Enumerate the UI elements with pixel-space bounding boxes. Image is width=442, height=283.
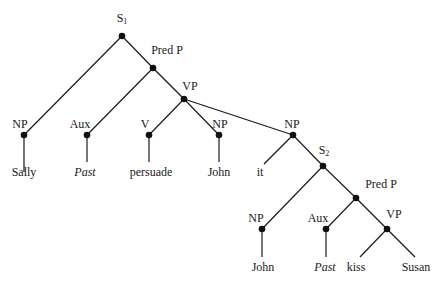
node-label-vp1: VP <box>182 80 197 92</box>
tree-node-dot <box>323 226 330 233</box>
leaf-word: John <box>208 166 231 178</box>
leaf-word: Susan <box>402 261 431 273</box>
tree-edge <box>149 99 184 135</box>
tree-edge <box>360 229 387 257</box>
tree-node-dot <box>320 163 327 170</box>
leaf-word: Past <box>314 261 335 273</box>
tree-node-dot <box>259 226 266 233</box>
node-label-aux1: Aux <box>70 118 91 130</box>
node-label-s1: S1 <box>117 12 128 26</box>
leaf-word: it <box>257 166 264 178</box>
leaf-word: Past <box>74 166 95 178</box>
tree-edge <box>153 68 184 99</box>
leaf-word: Sally <box>12 166 37 178</box>
node-label-np4: NP <box>248 212 263 224</box>
tree-node-dot <box>150 65 157 72</box>
node-label-vp2: VP <box>386 208 401 220</box>
tree-edge <box>323 166 356 198</box>
leaf-word: John <box>252 261 275 273</box>
tree-edge <box>387 229 415 257</box>
tree-edge <box>326 198 356 229</box>
tree-node-dot <box>84 132 91 139</box>
tree-edge <box>356 198 387 229</box>
tree-edge <box>184 99 293 135</box>
node-label-np2: NP <box>212 118 227 130</box>
tree-edge <box>122 36 153 68</box>
tree-node-dot <box>290 132 297 139</box>
node-label-aux2: Aux <box>308 212 329 224</box>
tree-node-dot <box>384 226 391 233</box>
syntax-tree-diagram: S1Pred PVPNPAuxVNPNPS2Pred PNPAuxVPSally… <box>0 0 442 283</box>
tree-node-dot <box>146 132 153 139</box>
leaf-word: persuade <box>130 166 173 178</box>
tree-node-dot <box>21 132 28 139</box>
tree-node-dot <box>181 96 188 103</box>
tree-edges-canvas <box>0 0 442 283</box>
node-label-s2: S2 <box>319 144 330 158</box>
tree-node-dot <box>353 195 360 202</box>
node-label-np1: NP <box>12 118 27 130</box>
tree-edge <box>264 135 293 164</box>
tree-node-dot <box>119 33 126 40</box>
tree-node-dot <box>216 132 223 139</box>
node-label-np3: NP <box>284 118 299 130</box>
leaf-word: kiss <box>347 261 366 273</box>
node-label-predp2: Pred P <box>365 178 397 190</box>
node-label-predp1: Pred P <box>151 44 183 56</box>
node-label-v1: V <box>141 118 150 130</box>
